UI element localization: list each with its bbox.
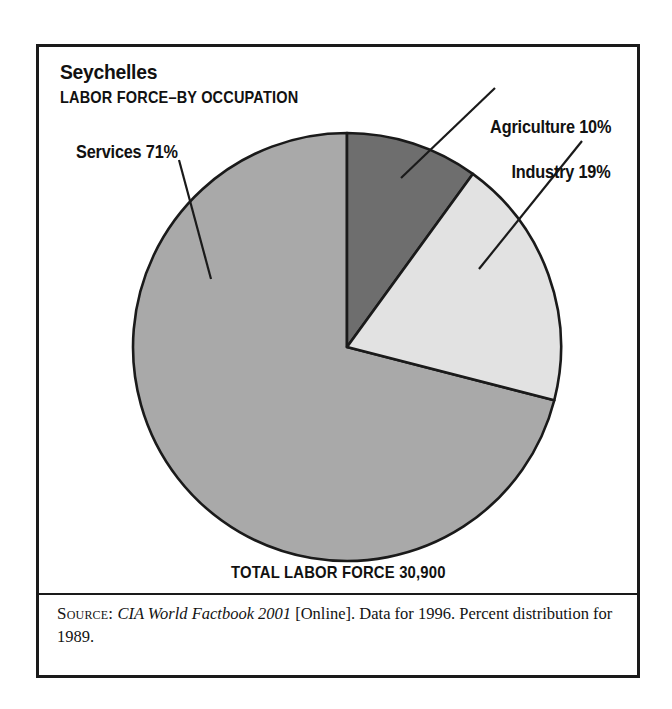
- total-labor-force-text: TOTAL LABOR FORCE 30,900: [231, 563, 446, 582]
- source-note: Source: CIA World Factbook 2001 [Online]…: [57, 603, 621, 648]
- source-label: Source:: [57, 604, 113, 623]
- figure-page: Seychelles LABOR FORCE–BY OCCUPATION Ser…: [0, 0, 672, 709]
- slice-label-industry: Industry 19%: [512, 162, 611, 183]
- slice-label-agriculture: Agriculture 10%: [490, 117, 611, 138]
- figure-frame: Seychelles LABOR FORCE–BY OCCUPATION Ser…: [36, 44, 640, 678]
- source-work-title: CIA World Factbook 2001: [117, 604, 291, 623]
- slice-label-services: Services 71%: [76, 142, 178, 163]
- total-labor-force-caption: TOTAL LABOR FORCE 30,900: [39, 563, 637, 582]
- source-divider: [39, 593, 637, 595]
